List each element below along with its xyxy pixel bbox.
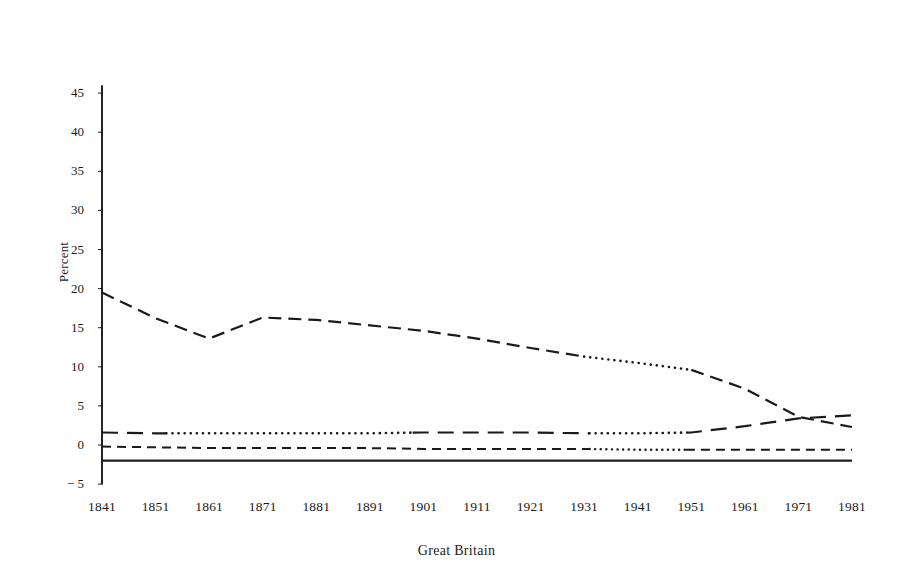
data-series-layer <box>102 293 852 461</box>
axis-lines <box>98 85 852 484</box>
plot-area <box>0 0 913 574</box>
series-3-segment-dotted <box>590 449 686 450</box>
series-3-segment-dashed-a <box>102 447 590 449</box>
series-2-segment-dotted-b <box>590 433 686 434</box>
series-1-segment-dashed-early <box>102 293 584 357</box>
series-1-segment-dashed-late <box>691 370 852 427</box>
series-2-segment-dashed-c <box>686 415 852 432</box>
series-2-segment-dashed-a <box>102 433 166 434</box>
chart-figure: Percent Great Britain 454035302520151050… <box>0 0 913 574</box>
series-2-segment-dotted-a <box>166 433 412 434</box>
series-2-segment-dashed-b <box>413 433 590 434</box>
series-1-segment-dotted <box>584 357 691 370</box>
